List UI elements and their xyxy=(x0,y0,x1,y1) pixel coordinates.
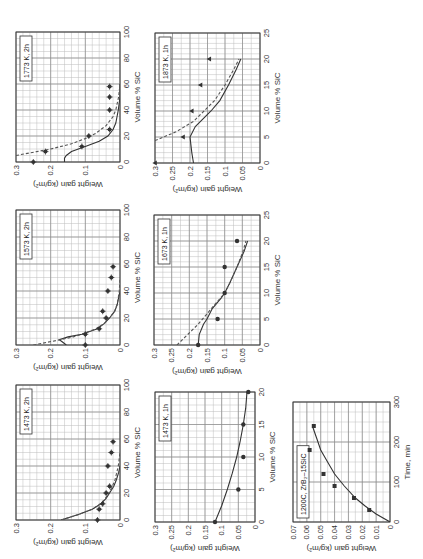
y-tick-label: 0 xyxy=(116,523,125,527)
x-axis-label: Volume % SiC xyxy=(133,252,142,303)
point-marker xyxy=(241,455,245,459)
x-tick-label: 15 xyxy=(262,81,271,89)
x-axis-label: Time, min xyxy=(403,445,412,480)
x-axis-label: Volume % SiC xyxy=(133,427,142,478)
y-tick-label: 0.05 xyxy=(238,166,247,181)
y-tick-label: 0 xyxy=(251,525,260,529)
y-tick-label: 0.1 xyxy=(220,348,229,358)
x-tick-label: 25 xyxy=(262,211,271,219)
y-tick-label: 0.05 xyxy=(316,525,325,540)
y-axis-label: Weight gain (kg/m²) xyxy=(33,180,103,189)
x-tick-label: 0 xyxy=(122,343,131,347)
point-marker xyxy=(367,508,371,512)
y-tick-label: 0.25 xyxy=(167,348,176,363)
y-tick-label: 0.1 xyxy=(81,348,90,358)
y-tick-label: 0.2 xyxy=(186,166,195,176)
point-marker xyxy=(246,390,250,394)
chart-1473K-2h: 02040608010000.10.20.3Volume % SiCWeight… xyxy=(12,379,143,547)
x-tick-label: 100 xyxy=(122,379,131,392)
y-tick-label: 0.02 xyxy=(358,525,367,540)
y-axis-label: Weight gain (kg/m²) xyxy=(172,185,242,194)
y-tick-label: 0 xyxy=(116,165,125,169)
y-tick-label: 0.15 xyxy=(203,166,212,181)
y-tick-label: 0 xyxy=(386,525,395,529)
panel-title: 1200C, ZrB₂–15SiC xyxy=(300,454,307,515)
y-tick-label: 0.05 xyxy=(238,348,247,363)
y-axis-label: Weight gain (kg/m²) xyxy=(170,544,240,553)
x-tick-label: 5 xyxy=(257,487,266,491)
point-marker xyxy=(213,520,217,524)
y-tick-label: 0.3 xyxy=(12,165,21,175)
x-tick-label: 40 xyxy=(122,462,131,470)
y-tick-label: 0.05 xyxy=(234,525,243,540)
chart-1673K-1h: 051015202500.050.10.150.20.250.3Volume %… xyxy=(150,211,283,376)
y-tick-label: 0.3 xyxy=(12,348,21,358)
x-tick-label: 80 xyxy=(122,54,131,62)
x-tick-label: 5 xyxy=(262,317,271,321)
x-tick-label: 20 xyxy=(122,489,131,497)
point-marker xyxy=(236,487,240,491)
x-tick-label: 100 xyxy=(122,204,131,217)
chart-1473K-1h: 0510152000.050.10.150.20.250.3Volume % S… xyxy=(151,388,278,553)
point-marker xyxy=(321,472,325,476)
figure-page: 02040608010000.10.20.3Volume % SiCWeight… xyxy=(0,0,423,559)
point-marker xyxy=(352,496,356,500)
point-marker xyxy=(241,422,245,426)
point-marker xyxy=(215,317,219,321)
y-tick-label: 0.1 xyxy=(221,166,230,176)
panel-title-box: 1873 K, 1h xyxy=(159,37,171,82)
chart-panels: 02040608010000.10.20.3Volume % SiCWeight… xyxy=(0,0,423,559)
panel-title-box: 1573 K, 2h xyxy=(20,214,32,259)
x-tick-label: 15 xyxy=(262,263,271,271)
point-marker xyxy=(308,448,312,452)
x-tick-label: 100 xyxy=(392,476,401,489)
chart-1773K-2h: 02040608010000.10.20.3Volume % SiCWeight… xyxy=(12,26,143,189)
point-marker xyxy=(312,424,316,428)
y-tick-label: 0.2 xyxy=(46,348,55,358)
point-marker xyxy=(235,239,239,243)
y-tick-label: 0.3 xyxy=(151,525,160,535)
x-axis-label: Volume % SiC xyxy=(133,71,142,122)
y-tick-label: 0.2 xyxy=(184,525,193,535)
y-axis-label: Weight gain (kg/m²) xyxy=(33,538,103,547)
series-line-model-dashed xyxy=(16,84,120,156)
y-tick-label: 0.1 xyxy=(81,523,90,533)
x-tick-label: 100 xyxy=(122,26,131,39)
x-tick-label: 0 xyxy=(122,518,131,522)
y-tick-label: 0 xyxy=(116,348,125,352)
x-tick-label: 40 xyxy=(122,106,131,114)
y-tick-label: 0.1 xyxy=(217,525,226,535)
x-tick-label: 0 xyxy=(122,160,131,164)
y-tick-label: 0.15 xyxy=(203,348,212,363)
panel-title: 1673 K, 1h xyxy=(161,227,168,261)
x-tick-label: 60 xyxy=(122,435,131,443)
y-tick-label: 0.07 xyxy=(289,525,298,540)
chart-1573K-2h: 02040608010000.10.20.3Volume % SiCWeight… xyxy=(12,204,143,372)
x-axis-label: Volume % SiC xyxy=(268,431,277,482)
x-tick-label: 60 xyxy=(122,80,131,88)
y-tick-label: 0.25 xyxy=(168,166,177,181)
y-tick-label: 0 xyxy=(256,348,265,352)
x-tick-label: 0 xyxy=(262,343,271,347)
y-tick-label: 0.06 xyxy=(302,525,311,540)
x-axis-label: Volume % SiC xyxy=(273,72,282,123)
panel-title: 1473 K, 1h xyxy=(162,404,169,438)
x-axis-label: Volume % SiC xyxy=(273,254,282,305)
y-tick-label: 0.04 xyxy=(330,525,339,540)
y-tick-label: 0.03 xyxy=(344,525,353,540)
y-axis-label: Weight gain (kg/m²) xyxy=(33,363,103,372)
y-tick-label: 0.2 xyxy=(46,523,55,533)
x-tick-label: 10 xyxy=(262,107,271,115)
x-tick-label: 5 xyxy=(262,135,271,139)
x-tick-label: 10 xyxy=(262,289,271,297)
y-tick-label: 0.01 xyxy=(372,525,381,540)
data-points xyxy=(308,424,372,512)
x-tick-label: 15 xyxy=(257,420,266,428)
panel-title: 1873 K, 1h xyxy=(162,45,169,79)
chart-1200C-ZrB2-15SiC: 010020030000.010.020.030.040.050.060.07T… xyxy=(289,396,413,553)
panel-title: 1473 K, 2h xyxy=(23,397,30,431)
x-tick-label: 0 xyxy=(392,520,401,524)
y-tick-label: 0 xyxy=(256,166,265,170)
x-tick-label: 80 xyxy=(122,408,131,416)
y-tick-label: 0.15 xyxy=(201,525,210,540)
